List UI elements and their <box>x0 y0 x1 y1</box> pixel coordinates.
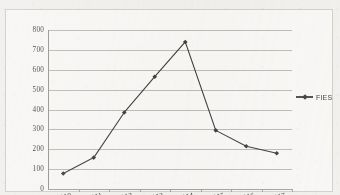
y-tick-label-800: 800 <box>33 26 44 34</box>
x-tickmark-2010 <box>79 189 80 192</box>
y-tick-label-700: 700 <box>33 46 44 54</box>
x-tick-label-2014: 2014 <box>178 191 195 195</box>
legend-line-icon <box>296 93 313 101</box>
data-point-2010 <box>61 171 66 176</box>
x-tickmark-2011 <box>109 189 110 192</box>
series-fies <box>48 30 292 189</box>
x-tickmark-2013 <box>170 189 171 192</box>
data-point-2017 <box>274 151 279 156</box>
x-tickmark-2012 <box>140 189 141 192</box>
x-tick-label-2011: 2011 <box>86 191 102 195</box>
x-tick-label-2015: 2015 <box>208 191 225 195</box>
x-tickmark-2015 <box>231 189 232 192</box>
y-tick-label-500: 500 <box>33 86 44 94</box>
x-tick-label-2012: 2012 <box>117 191 134 195</box>
legend-label: FIES <box>316 94 332 101</box>
scanned-chart-page: 8007006005004003002001000 20102011201220… <box>0 0 340 195</box>
y-tick-label-200: 200 <box>33 145 44 153</box>
x-tick-label-2013: 2013 <box>147 191 164 195</box>
chart-legend: FIES <box>296 93 332 101</box>
y-tick-label-0: 0 <box>40 185 44 193</box>
y-tick-label-400: 400 <box>33 106 44 114</box>
x-tick-label-2017: 2017 <box>269 191 286 195</box>
x-tick-label-2010: 2010 <box>56 191 73 195</box>
y-tick-label-300: 300 <box>33 125 44 133</box>
x-tickmark-2016 <box>262 189 263 192</box>
x-tickmark-2017 <box>292 189 293 192</box>
chart-frame: 8007006005004003002001000 20102011201220… <box>5 9 333 192</box>
y-tick-label-600: 600 <box>33 66 44 74</box>
y-tick-label-100: 100 <box>33 165 44 173</box>
x-tickmark-2014 <box>201 189 202 192</box>
x-tick-label-2016: 2016 <box>239 191 256 195</box>
plot-area: 8007006005004003002001000 20102011201220… <box>48 30 292 189</box>
data-point-2015 <box>213 128 218 133</box>
diamond-marker-icon <box>302 94 308 100</box>
series-line <box>63 42 277 174</box>
data-point-2016 <box>244 144 249 149</box>
